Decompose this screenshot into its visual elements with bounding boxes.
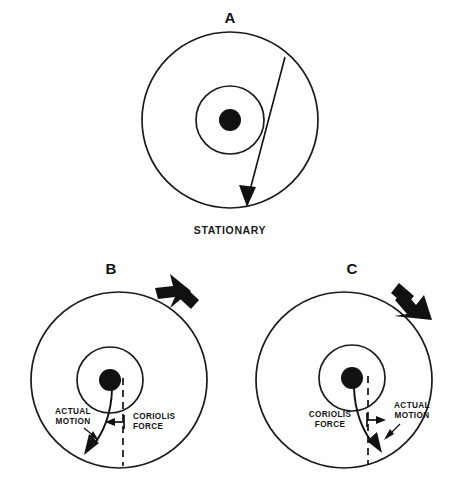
- panel-c-actual-label: ACTUAL: [394, 401, 430, 410]
- panel-b-force-label: FORCE: [133, 422, 164, 431]
- panel-b-actual-label: ACTUAL: [55, 407, 91, 416]
- panel-b-letter: B: [105, 260, 116, 277]
- panel-c-letter: C: [346, 260, 357, 277]
- panel-b-motion-label: MOTION: [56, 417, 91, 426]
- panel-c: C CORIOLIS FORCE: [256, 260, 432, 468]
- panel-b-coriolis-label: CORIOLIS: [133, 412, 176, 421]
- panel-c-coriolis-label: CORIOLIS: [309, 410, 352, 419]
- panel-b-hub-dot: [99, 369, 121, 391]
- panel-a-letter: A: [224, 9, 235, 26]
- panel-c-coriolis-force-label: CORIOLIS FORCE: [309, 410, 352, 429]
- panel-c-motion-label: MOTION: [395, 411, 430, 420]
- panel-a-caption: STATIONARY: [194, 224, 266, 236]
- panel-c-force-label: FORCE: [315, 420, 346, 429]
- panel-a-hub-dot: [219, 109, 241, 131]
- coriolis-figure: A STATIONARY B: [0, 0, 458, 481]
- coriolis-diagram-svg: A STATIONARY B: [0, 0, 458, 481]
- panel-b: B ACTUAL MOTION: [31, 260, 207, 468]
- panel-a: A STATIONARY: [142, 9, 318, 236]
- panel-c-hub-dot: [341, 367, 363, 389]
